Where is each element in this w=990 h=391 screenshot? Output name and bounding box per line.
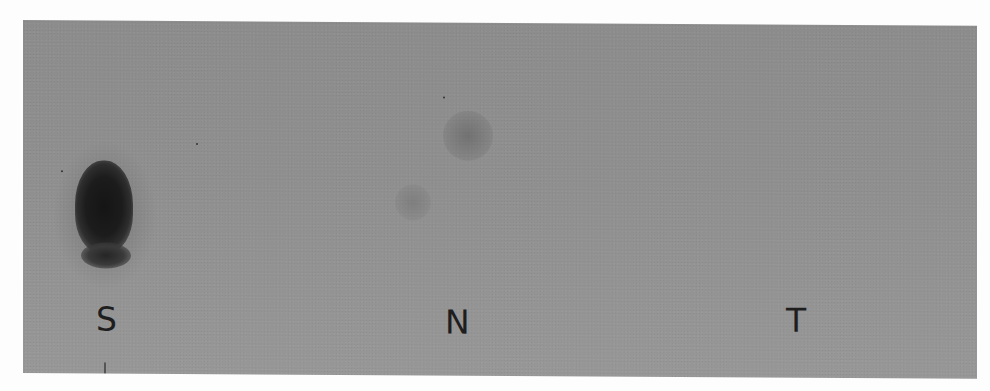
lane-label-t: T: [786, 304, 806, 337]
film-grain-texture: [23, 20, 977, 379]
dust-speck: [61, 170, 63, 172]
lane-s-lower-band: [81, 242, 131, 268]
blot-panel: S N T: [23, 20, 977, 379]
lane-label-n: N: [445, 306, 470, 339]
dust-speck: [196, 143, 198, 145]
dust-speck: [443, 97, 445, 99]
lane-label-s: S: [96, 302, 117, 335]
lane-s-spot: [75, 160, 133, 252]
lane-n-faint-spot: [443, 111, 493, 161]
lane-n-faint-smudge: [395, 184, 431, 220]
lane-s-tick-mark: [104, 362, 106, 373]
